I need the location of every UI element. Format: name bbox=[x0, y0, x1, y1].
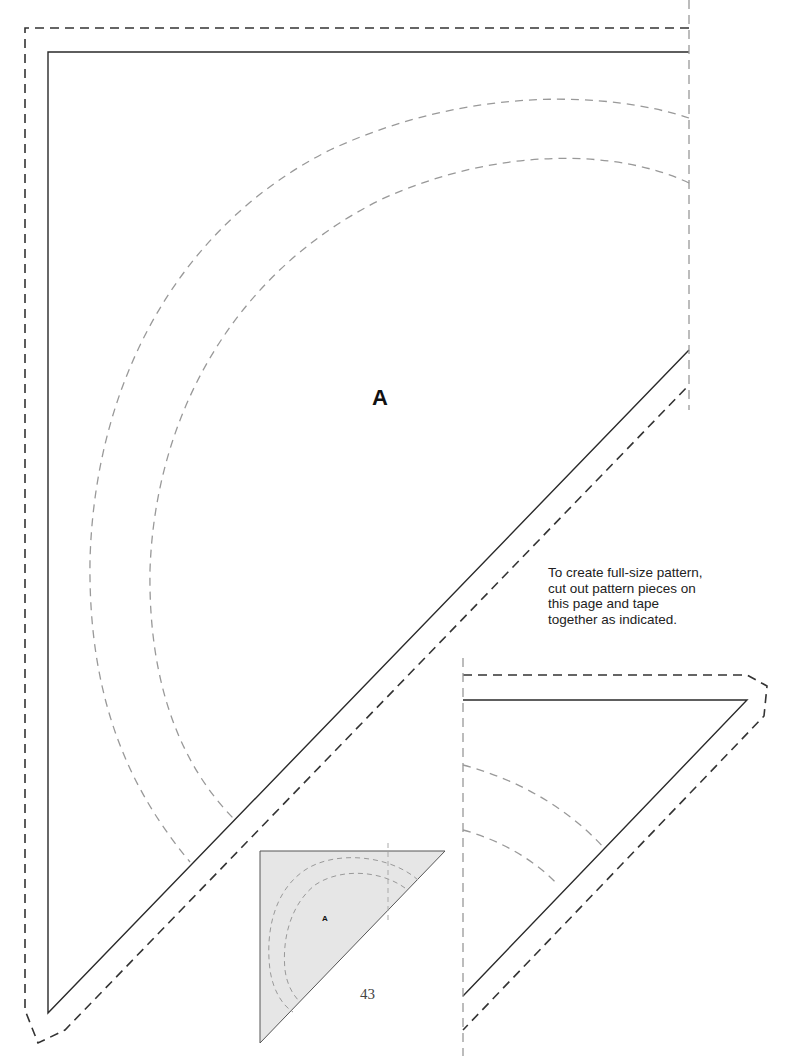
main-outer-arc bbox=[90, 99, 689, 862]
page-number: 43 bbox=[360, 986, 375, 1003]
continuation-seam-allowance-line bbox=[463, 675, 767, 1030]
thumbnail-preview bbox=[260, 843, 445, 1043]
main-inner-arc bbox=[150, 158, 689, 820]
continuation-outer-arc bbox=[463, 765, 604, 848]
thumbnail-label-a: A bbox=[322, 914, 328, 923]
continuation-inner-arc bbox=[463, 830, 558, 885]
piece-label-a: A bbox=[372, 385, 388, 411]
continuation-cut-line bbox=[463, 700, 747, 996]
pattern-drawing bbox=[0, 0, 793, 1056]
pattern-page: A A To create full-size pattern, cut out… bbox=[0, 0, 793, 1056]
assembly-instructions: To create full-size pattern, cut out pat… bbox=[548, 565, 708, 627]
